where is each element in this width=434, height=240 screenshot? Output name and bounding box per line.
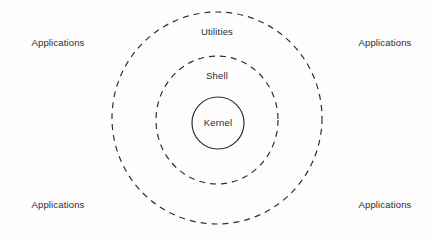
applications-label-bottom-left: Applications xyxy=(31,200,84,210)
utilities-ring-label: Utilities xyxy=(201,27,233,37)
applications-label-top-right: Applications xyxy=(358,38,411,48)
applications-label-top-left: Applications xyxy=(31,38,84,48)
shell-ring-label: Shell xyxy=(206,71,228,81)
kernel-label: Kernel xyxy=(204,118,232,128)
applications-label-bottom-right: Applications xyxy=(358,200,411,210)
architecture-diagram: Utilities Shell Kernel Applications Appl… xyxy=(0,0,434,240)
